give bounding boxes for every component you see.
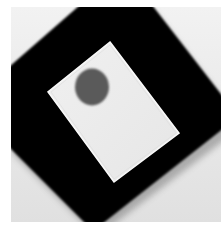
gray-circle <box>75 69 109 106</box>
photo-canvas <box>11 7 221 222</box>
photograph <box>11 7 221 222</box>
